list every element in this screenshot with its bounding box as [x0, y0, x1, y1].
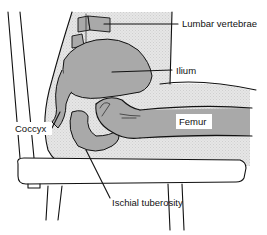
label-ischial-tuberosity: Ischial tuberosity	[112, 197, 183, 208]
diagram-canvas: Lumbar vertebrae Ilium Femur Coccyx Isch…	[0, 0, 267, 235]
label-ilium: Ilium	[176, 65, 196, 76]
pelvis-seated-diagram: Lumbar vertebrae Ilium Femur Coccyx Isch…	[0, 0, 267, 235]
label-coccyx: Coccyx	[15, 123, 46, 134]
chair-back	[8, 12, 34, 158]
label-femur: Femur	[179, 116, 206, 127]
label-lumbar-vertebrae: Lumbar vertebrae	[182, 18, 257, 29]
chair-seat	[18, 158, 246, 188]
